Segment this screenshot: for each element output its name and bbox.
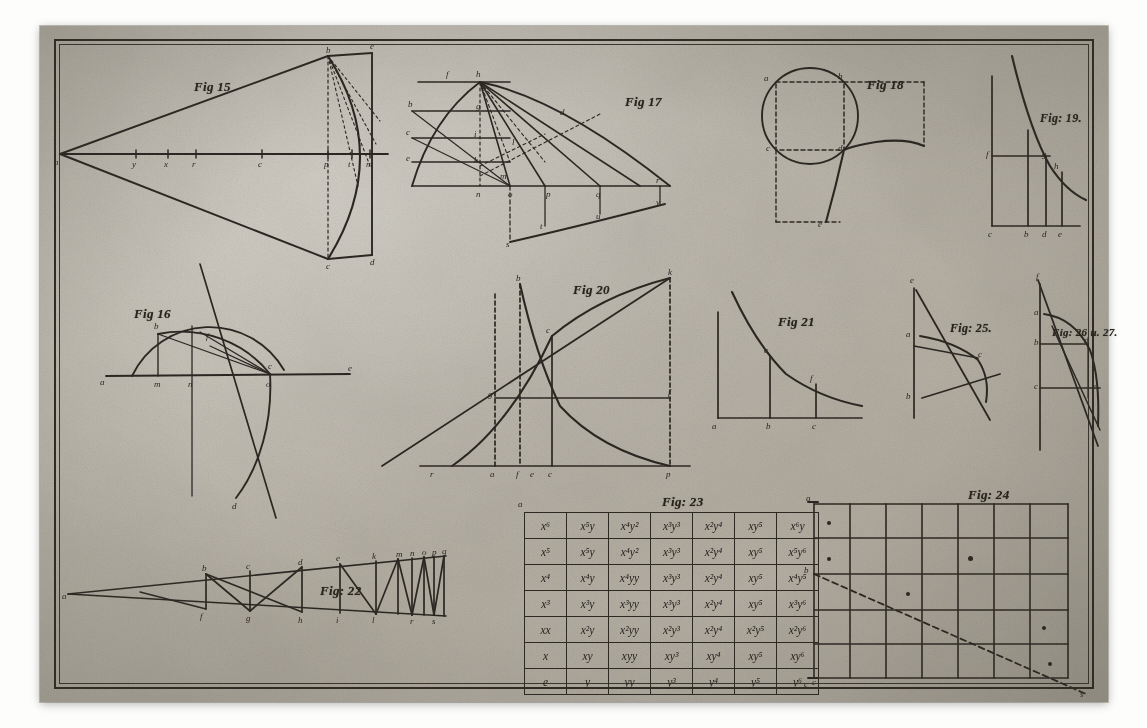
point-label: x [164, 160, 168, 169]
point-label: a [62, 592, 67, 601]
point-label: c [326, 262, 330, 271]
fig-23-cell: x³y³ [651, 591, 693, 617]
point-label: p [324, 160, 329, 169]
point-label: h [476, 70, 481, 79]
point-label: h [1054, 162, 1059, 171]
fig-23-cell: x²y⁴ [693, 513, 735, 539]
fig-23-cell: x⁴yy [609, 565, 651, 591]
fig-24-dot [968, 556, 973, 561]
point-label: r [410, 617, 414, 626]
fig-23-cell: y⁵ [735, 669, 777, 695]
fig-23-cell: x⁴y [567, 565, 609, 591]
fig-23-cell: y⁴ [693, 669, 735, 695]
point-label: a [518, 500, 523, 509]
point-label: c [812, 678, 816, 687]
point-label: m [500, 172, 507, 181]
point-label: a [806, 494, 811, 503]
figure-caption-fig16: Fig 16 [134, 306, 171, 322]
point-label: m [396, 550, 403, 559]
point-label: b [1024, 230, 1029, 239]
point-label: p [546, 190, 551, 199]
point-label: e [530, 470, 534, 479]
fig-23-monomial-table: x⁶x⁵yx⁴y²x³y³x²y⁴xy⁵x⁶yx⁵x⁵yx⁴y²x³y³x²y⁴… [524, 512, 819, 695]
point-label: c [246, 562, 250, 571]
figure-caption-fig17: Fig 17 [625, 94, 662, 110]
point-label: y [132, 160, 136, 169]
point-label: s [432, 617, 436, 626]
fig-23-cell: x⁶ [525, 513, 567, 539]
fig-23-cell: xy [567, 643, 609, 669]
point-label: d [1084, 336, 1089, 345]
fig-23-cell: x [525, 643, 567, 669]
fig-24-grid [808, 502, 1086, 694]
point-label: m [154, 380, 161, 389]
fig-23-cell: x³y [567, 591, 609, 617]
point-label: c [988, 230, 992, 239]
fig-23-cell: x³y³ [651, 513, 693, 539]
point-label: i [336, 616, 339, 625]
point-label: c [548, 470, 552, 479]
fig-23-row: eyyyy³y⁴y⁵y⁶ [525, 669, 819, 695]
point-label: b [516, 274, 521, 283]
point-label: n [188, 380, 193, 389]
fig-16-drawing [106, 264, 350, 518]
fig-23-cell: x³yy [609, 591, 651, 617]
fig-23-cell: x⁶y [777, 513, 819, 539]
fig-23-cell: x³y³ [651, 565, 693, 591]
fig-23-cell: xx [525, 617, 567, 643]
point-label: q [442, 547, 447, 556]
point-label: d [232, 502, 237, 511]
point-label: b [202, 564, 207, 573]
point-label: m [366, 160, 373, 169]
point-label: r [192, 160, 196, 169]
point-label: e [764, 346, 768, 355]
point-label: n [410, 549, 415, 558]
fig-23-cell: x⁵y [567, 513, 609, 539]
point-label: q [596, 190, 601, 199]
point-label: c [406, 128, 410, 137]
point-label: f [446, 70, 449, 79]
fig-23-table-body: x⁶x⁵yx⁴y²x³y³x²y⁴xy⁵x⁶yx⁵x⁵yx⁴y²x³y³x²y⁴… [525, 513, 819, 695]
fig-23-cell: x²y⁴ [693, 591, 735, 617]
point-label: c [766, 144, 770, 153]
point-label: a [906, 330, 911, 339]
fig-23-cell: x⁴y⁵ [777, 565, 819, 591]
point-label: g [246, 614, 251, 623]
fig-23-cell: x²yy [609, 617, 651, 643]
fig-23-cell: x²y [567, 617, 609, 643]
point-label: e [1092, 382, 1096, 391]
fig-23-cell: x⁵y [567, 539, 609, 565]
point-label: h [298, 616, 303, 625]
figure-caption-fig20: Fig 20 [573, 282, 610, 298]
point-label: o [266, 380, 271, 389]
point-label: b [326, 46, 331, 55]
fig-23-cell: x³y³ [651, 539, 693, 565]
figure-caption-fig23: Fig: 23 [662, 494, 703, 510]
point-label: a [490, 470, 495, 479]
fig-23-cell: xy⁵ [735, 565, 777, 591]
fig-23-cell: xy⁵ [735, 513, 777, 539]
point-label: f [206, 332, 209, 341]
point-label: a [1034, 308, 1039, 317]
fig-24-dot [827, 557, 831, 561]
point-label: s [1080, 690, 1084, 699]
point-label: c [258, 160, 262, 169]
engraved-plate: x⁶x⁵yx⁴y²x³y³x²y⁴xy⁵x⁶yx⁵x⁵yx⁴y²x³y³x²y⁴… [40, 26, 1108, 702]
point-label: a [764, 74, 769, 83]
fig-23-cell: x²y⁴ [693, 617, 735, 643]
fig-23-cell: e [525, 669, 567, 695]
fig-23-cell: xy⁵ [735, 643, 777, 669]
fig-23-cell: x³y⁶ [777, 591, 819, 617]
fig-23-row: x³x³yx³yyx³y³x²y⁴xy⁵x³y⁶ [525, 591, 819, 617]
fig-24-dot [1048, 662, 1052, 666]
fig-23-cell: xy³ [651, 643, 693, 669]
fig-23-cell: yy [609, 669, 651, 695]
point-label: e [406, 154, 410, 163]
fig-23-cell: x²y⁶ [777, 617, 819, 643]
fig-23-row: x⁶x⁵yx⁴y²x³y³x²y⁴xy⁵x⁶y [525, 513, 819, 539]
point-label: e [1058, 230, 1062, 239]
point-label: f [810, 374, 813, 383]
figure-caption-fig25: Fig: 25. [950, 321, 992, 336]
point-label: g [476, 102, 481, 111]
point-label: d [370, 258, 375, 267]
